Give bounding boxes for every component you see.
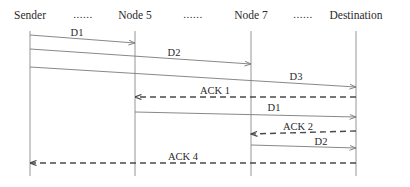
ellipsis-1: ...... xyxy=(73,8,93,20)
node-label-destination: Destination xyxy=(329,9,382,21)
sequence-diagram: Sender ...... Node 5 ...... Node 7 .....… xyxy=(0,0,410,187)
message-label-d2: D2 xyxy=(168,47,181,58)
message-label-d1-relay: D1 xyxy=(268,102,281,113)
node-label-node5: Node 5 xyxy=(118,9,152,21)
message-arrow-d1-relay xyxy=(135,112,356,117)
ellipsis-3: ...... xyxy=(293,8,313,20)
node-label-node7: Node 7 xyxy=(234,9,268,21)
message-label-d3: D3 xyxy=(290,71,303,82)
message-label-d1: D1 xyxy=(71,27,84,38)
message-label-ack2: ACK 2 xyxy=(283,121,313,132)
message-arrow-d2 xyxy=(30,49,251,64)
ellipsis-2: ...... xyxy=(183,8,203,20)
message-arrow-d2-relay xyxy=(251,145,356,148)
node-label-sender: Sender xyxy=(14,9,46,21)
message-label-d2-relay: D2 xyxy=(315,136,328,147)
message-label-ack1: ACK 1 xyxy=(200,85,230,96)
message-arrow-d3 xyxy=(30,67,356,87)
message-label-ack4: ACK 4 xyxy=(168,151,199,162)
